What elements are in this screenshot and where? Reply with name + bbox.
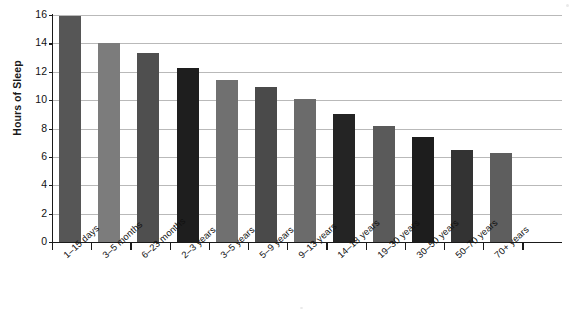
bar-8 <box>333 114 355 242</box>
y-tick-mark-14 <box>49 43 53 44</box>
x-tick-8 <box>366 243 367 250</box>
y-tick-mark-8 <box>49 129 53 130</box>
y-tick-mark-4 <box>49 185 53 186</box>
scan-artifact <box>566 4 569 7</box>
y-tick-label-12: 12 <box>7 65 47 77</box>
plot-area <box>53 15 562 242</box>
x-tick-7 <box>326 243 327 250</box>
x-tick-9 <box>405 243 406 250</box>
y-tick-label-14: 14 <box>7 36 47 48</box>
bar-7 <box>294 99 316 242</box>
gridline-14 <box>53 43 562 44</box>
y-tick-mark-10 <box>49 100 53 101</box>
x-tick-11 <box>483 243 484 250</box>
x-tick-1 <box>91 243 92 250</box>
x-tick-2 <box>130 243 131 250</box>
bar-2 <box>98 43 120 242</box>
y-tick-label-8: 8 <box>7 122 47 134</box>
y-tick-mark-12 <box>49 72 53 73</box>
sleep-hours-bar-chart: Hours of Sleep 0246810121416 1–15 days3–… <box>0 0 576 317</box>
x-tick-4 <box>209 243 210 250</box>
bar-3 <box>137 53 159 242</box>
y-tick-label-6: 6 <box>7 150 47 162</box>
y-tick-label-4: 4 <box>7 178 47 190</box>
bar-5 <box>216 80 238 242</box>
gridline-16 <box>53 15 562 16</box>
y-tick-mark-2 <box>49 214 53 215</box>
y-tick-label-0: 0 <box>7 235 47 247</box>
scan-artifact <box>300 307 303 309</box>
y-tick-label-16: 16 <box>7 8 47 20</box>
y-tick-label-10: 10 <box>7 93 47 105</box>
x-tick-3 <box>170 243 171 250</box>
y-tick-mark-6 <box>49 157 53 158</box>
gridline-12 <box>53 72 562 73</box>
x-tick-5 <box>248 243 249 250</box>
x-tick-6 <box>287 243 288 250</box>
y-tick-mark-16 <box>49 15 53 16</box>
y-tick-label-2: 2 <box>7 207 47 219</box>
x-tick-12 <box>522 243 523 250</box>
bar-1 <box>59 16 81 242</box>
x-tick-10 <box>444 243 445 250</box>
bar-6 <box>255 87 277 242</box>
x-tick-0 <box>52 243 53 250</box>
